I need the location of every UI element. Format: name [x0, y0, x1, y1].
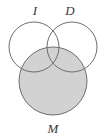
venn-diagram-figure: I D M: [0, 0, 108, 138]
set-d-label: D: [64, 3, 75, 18]
set-i-label: I: [32, 3, 38, 18]
venn-diagram-canvas: I D M: [0, 0, 108, 138]
set-m-label: M: [47, 121, 60, 136]
